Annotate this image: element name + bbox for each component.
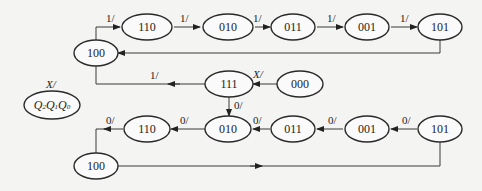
- svg-text:001: 001: [358, 20, 376, 34]
- svg-text:110: 110: [138, 20, 156, 34]
- svg-text:011: 011: [284, 20, 302, 34]
- svg-text:101: 101: [431, 122, 449, 136]
- state-100-bottom: 100: [74, 153, 118, 179]
- label-bottom-2: 0/: [328, 114, 338, 126]
- state-100-top: 100: [74, 40, 118, 66]
- label-000-111: X/: [252, 68, 264, 80]
- label-top-1: 1/: [106, 12, 116, 24]
- legend-node: Q2Q1Q0: [24, 91, 80, 119]
- state-101-top: 101: [418, 14, 462, 40]
- state-010-bottom: 010: [205, 116, 251, 142]
- state-000: 000: [277, 71, 323, 97]
- label-bottom-4: 0/: [180, 114, 190, 126]
- label-top-4: 1/: [327, 12, 337, 24]
- state-001-bottom: 001: [345, 116, 389, 142]
- label-bottom-5: 0/: [106, 114, 116, 126]
- label-top-5: 1/: [400, 12, 410, 24]
- svg-text:100: 100: [87, 46, 105, 60]
- svg-text:010: 010: [219, 20, 237, 34]
- svg-text:001: 001: [358, 122, 376, 136]
- svg-text:011: 011: [284, 122, 302, 136]
- state-011-top: 011: [271, 14, 315, 40]
- label-bottom-3: 0/: [253, 114, 263, 126]
- svg-text:101: 101: [431, 20, 449, 34]
- svg-text:110: 110: [138, 122, 156, 136]
- edge-110-100: [96, 129, 123, 153]
- state-101-bottom: 101: [418, 116, 462, 142]
- state-001-top: 001: [345, 14, 389, 40]
- legend-label: X/: [45, 78, 57, 90]
- svg-text:100: 100: [87, 159, 105, 173]
- label-bottom-1: 0/: [402, 114, 412, 126]
- state-110-bottom: 110: [124, 116, 170, 142]
- svg-text:010: 010: [219, 122, 237, 136]
- label-111-010: 0/: [234, 99, 244, 111]
- label-top-2: 1/: [180, 12, 190, 24]
- svg-text:111: 111: [220, 77, 237, 91]
- state-111: 111: [205, 71, 253, 97]
- svg-text:Q2Q1Q0: Q2Q1Q0: [34, 98, 71, 112]
- label-top-3: 1/: [253, 12, 263, 24]
- state-010-top: 010: [203, 14, 253, 40]
- state-011-bottom: 011: [271, 116, 315, 142]
- state-diagram: 1/ 1/ 1/ 1/ 1/ 1/ X/ 0/ 0/ 0/ 0/ 0/ 0/ X…: [0, 0, 482, 191]
- edge-100-110: [96, 27, 120, 40]
- edge-100-101: [118, 142, 440, 166]
- state-110-top: 110: [122, 14, 172, 40]
- svg-text:000: 000: [291, 77, 309, 91]
- label-111-100: 1/: [150, 69, 160, 81]
- edge-101-100: [118, 40, 440, 53]
